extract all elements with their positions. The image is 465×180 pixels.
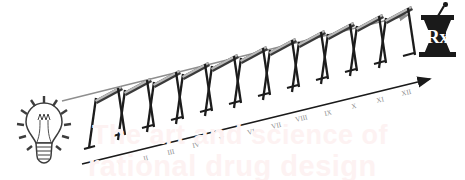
timeline-axis-arrow (82, 79, 430, 164)
step-label: V (219, 135, 226, 144)
step-label: IV (192, 140, 201, 150)
step-label: VII (271, 121, 283, 131)
step-labels: I II III IV V VI VII VIII IX X XI XII (118, 88, 413, 169)
lightbulb-icon (17, 96, 71, 163)
staircase-diagram: I II III IV V VI VII VIII IX X XI XII (0, 0, 465, 180)
step-label: XI (376, 95, 386, 105)
step-label: VI (247, 127, 257, 137)
step-label: III (167, 147, 176, 157)
rx-label: Rx (426, 26, 450, 47)
rx-mortar-pestle-icon: Rx (419, 2, 456, 57)
step-label: XII (401, 88, 413, 98)
step-label: X (351, 102, 358, 111)
step-label: IX (324, 108, 333, 118)
diagram-canvas: The art and science of rational drug des… (0, 0, 465, 180)
step-label: VIII (295, 113, 309, 124)
step-label: II (143, 154, 150, 163)
step-label: I (118, 160, 123, 168)
